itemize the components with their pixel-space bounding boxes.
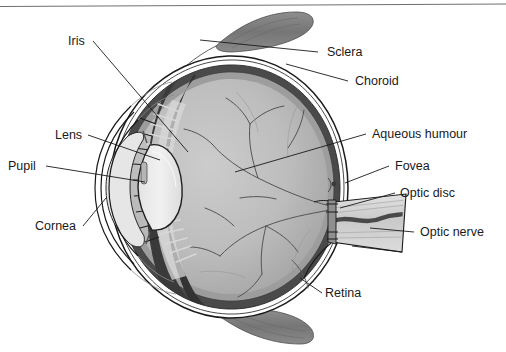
eye-cross-section-svg: Iris Sclera Choroid Lens Aqueous humour …	[0, 0, 506, 352]
label-cornea: Cornea	[35, 219, 76, 233]
label-fovea: Fovea	[395, 159, 430, 173]
label-retina: Retina	[325, 286, 361, 300]
label-iris: Iris	[68, 34, 85, 48]
eye-diagram-figure: Iris Sclera Choroid Lens Aqueous humour …	[0, 0, 506, 352]
label-optic-disc: Optic disc	[400, 186, 455, 200]
label-sclera: Sclera	[327, 45, 362, 59]
label-aqueous-humour: Aqueous humour	[372, 127, 467, 141]
label-pupil: Pupil	[8, 159, 36, 173]
label-lens: Lens	[55, 128, 82, 142]
label-choroid: Choroid	[355, 74, 399, 88]
optic-disc	[326, 200, 338, 244]
pupil-margin	[141, 162, 147, 184]
label-optic-nerve: Optic nerve	[420, 225, 484, 239]
